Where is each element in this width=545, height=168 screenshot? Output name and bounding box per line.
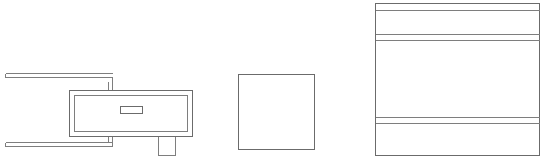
square-panel-outline <box>239 75 315 150</box>
drawing-canvas <box>0 0 545 168</box>
drawer-unit-assembly <box>6 74 193 156</box>
lower-slide-rail <box>6 143 113 147</box>
drawer-leg <box>159 137 176 156</box>
tall-cabinet-outline <box>376 4 540 156</box>
tall-cabinet <box>376 4 540 156</box>
technical-line-drawing <box>0 0 545 168</box>
drawer-handle <box>121 107 143 114</box>
square-panel <box>239 75 315 150</box>
upper-slide-rail <box>6 74 113 78</box>
